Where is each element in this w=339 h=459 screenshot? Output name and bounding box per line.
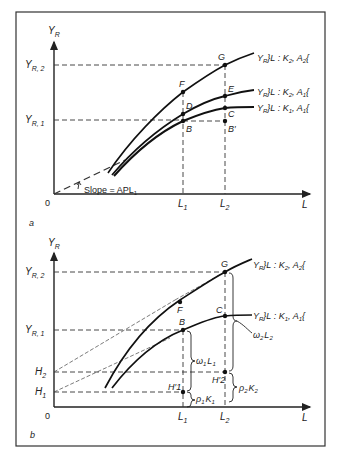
point-b-a: B — [186, 124, 192, 134]
x-axis-end-label-a: L — [302, 199, 308, 210]
label-rho1-k1: ρ1K1 — [195, 394, 215, 405]
point-f-b: F — [177, 305, 183, 315]
point-g-a: G — [218, 52, 225, 62]
label-omega2-l2: ω2L2 — [253, 330, 273, 341]
origin-label-a: 0 — [45, 198, 50, 208]
label-omega1-l1: ω1L1 — [196, 356, 216, 367]
point-bprime-a: B′ — [228, 124, 236, 134]
y-axis-label-b: YR — [48, 237, 60, 250]
curve-label-k2a2-b: YR}L : K2, A2{ — [253, 260, 306, 271]
brace-omega2-l2 — [229, 273, 237, 371]
point-h1prime-b: H′1 — [168, 382, 181, 392]
point-b-b: B — [179, 317, 185, 327]
curve-label-k1a1-b: YR}L : K1, A1{ — [253, 311, 306, 322]
ytick-yr2-a: YR, 2 — [25, 59, 45, 72]
point-h2prime-b: H′2 — [212, 375, 225, 385]
brace-omega1-l1 — [187, 331, 195, 391]
brace-rho2-k2 — [229, 373, 237, 402]
label-rho2-k2: ρ2K2 — [238, 383, 259, 394]
ytick-yr2-b: YR, 2 — [25, 266, 45, 279]
ytick-h1-b: H1 — [35, 386, 46, 399]
xtick-l1-b: L1 — [178, 411, 188, 424]
xtick-l1-a: L1 — [178, 198, 188, 211]
svg-text:YR: YR — [48, 25, 60, 38]
figure-frame — [16, 12, 325, 446]
point-f-a: F — [179, 79, 185, 89]
xtick-l2-a: L2 — [220, 198, 230, 211]
ytick-h2-b: H2 — [35, 366, 46, 379]
panel-label-b: b — [30, 430, 35, 440]
panel-b: YR L 0 YR, 2 YR, 1 H2 H1 L1 L2 G F C B H… — [25, 237, 310, 440]
origin-label-b: 0 — [45, 411, 50, 421]
point-e-a: E — [228, 84, 235, 94]
point-g-b: G — [221, 259, 228, 269]
point-c-b: C — [216, 305, 223, 315]
x-axis-end-label-b: L — [302, 412, 308, 423]
curve-label-k1a1-a: YR}L : K1, A1{ — [257, 103, 310, 114]
ytick-yr1-b: YR, 1 — [25, 324, 45, 337]
ytick-yr1-a: YR, 1 — [25, 114, 45, 127]
slope-apl-label: Slope = APL1 — [84, 185, 138, 196]
curve-label-k2a1-a: YR}L : K2, A1{ — [257, 87, 310, 98]
point-d-a: D — [186, 101, 193, 111]
xtick-l2-b: L2 — [220, 411, 230, 424]
curve-label-k2a2-a: YR}L : K2, A2{ — [257, 53, 310, 64]
brace-rho1-k1 — [187, 392, 195, 407]
point-c-a: C — [228, 109, 235, 119]
panel-label-a: a — [29, 218, 34, 228]
panel-a: YR L 0 YR, 2 YR, 1 L1 L2 Slope = APL1 G … — [25, 25, 310, 228]
production-function-diagram: YR L 0 YR, 2 YR, 1 L1 L2 Slope = APL1 G … — [0, 0, 339, 459]
